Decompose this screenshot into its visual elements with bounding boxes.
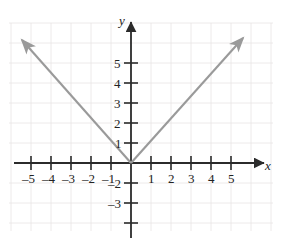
y-axis-label: y (119, 14, 125, 27)
absolute-value-curve (22, 38, 243, 163)
y-tick-label-neg3: –3 (108, 197, 121, 210)
x-tick-label-2: 2 (168, 172, 175, 185)
grid-lines (9, 23, 273, 231)
right-ray (131, 38, 243, 163)
x-tick-label-neg5: –5 (22, 172, 35, 185)
graph-figure: y x 5 4 3 2 1 –2 –3 –5 –4 –3 –2 –1 1 2 3… (0, 0, 283, 241)
x-tick-label-5: 5 (228, 172, 235, 185)
x-tick-label-neg4: –4 (42, 172, 55, 185)
y-tick-label-2: 2 (114, 117, 121, 130)
x-axis (14, 156, 264, 170)
x-tick-label-1: 1 (148, 172, 155, 185)
y-tick-label-4: 4 (114, 77, 121, 90)
y-tick-label-5: 5 (114, 57, 121, 70)
y-tick-label-1: 1 (115, 137, 122, 150)
x-tick-label-neg2: –2 (82, 172, 95, 185)
y-tick-label-3: 3 (114, 97, 121, 110)
x-tick-label-neg1: –1 (102, 172, 115, 185)
x-tick-label-4: 4 (208, 172, 215, 185)
x-axis-label: x (265, 159, 271, 172)
coordinate-plane-svg (0, 0, 283, 241)
x-tick-label-3: 3 (188, 172, 195, 185)
y-axis (124, 22, 138, 238)
x-tick-label-neg3: –3 (62, 172, 75, 185)
